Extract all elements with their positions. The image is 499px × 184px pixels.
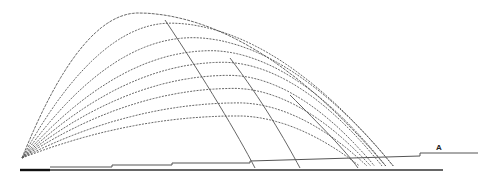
- trajectory-6: [22, 75, 375, 166]
- descent-line-2: [230, 58, 300, 168]
- point-label-a: A: [436, 143, 442, 152]
- trajectory-3: [22, 38, 393, 166]
- descent-line-group: [165, 20, 358, 168]
- trajectory-7: [22, 88, 371, 166]
- ground-lines: [20, 153, 478, 170]
- trajectory-group: [22, 13, 393, 166]
- trajectory-2: [22, 23, 393, 166]
- stepped-ground-line: [50, 153, 478, 167]
- trajectory-diagram: A: [0, 0, 499, 184]
- trajectory-8: [22, 103, 367, 166]
- trajectory-9: [22, 116, 360, 166]
